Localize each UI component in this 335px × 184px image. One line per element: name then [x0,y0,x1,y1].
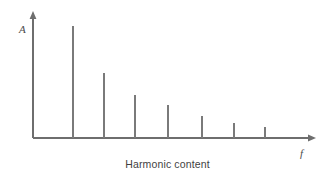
y-axis-label: A [18,23,26,35]
x-axis-arrowhead [308,135,316,142]
figure-caption: Harmonic content [0,158,335,170]
harmonic-content-figure: A f Harmonic content [0,0,335,184]
y-axis-arrowhead [30,11,37,19]
harmonic-spectrum-chart: A f [0,0,335,184]
